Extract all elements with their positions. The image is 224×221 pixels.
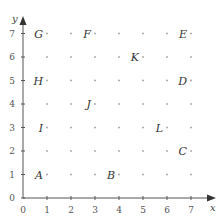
grid-dot — [118, 127, 120, 129]
y-tick-label: 2 — [9, 146, 15, 156]
grid-dot — [46, 174, 48, 176]
grid-dot — [94, 33, 96, 35]
grid-dot — [46, 33, 48, 35]
x-axis-label: x — [210, 202, 216, 213]
x-tick-label: 4 — [116, 205, 122, 215]
grid-dot — [94, 56, 96, 58]
grid-dot — [46, 103, 48, 105]
point-label-i: I — [38, 122, 44, 135]
point-label-k: K — [130, 51, 140, 64]
grid-dot — [94, 174, 96, 176]
grid-dot — [70, 103, 72, 105]
x-tick-label: 1 — [44, 205, 50, 215]
grid-dot — [166, 150, 168, 152]
grid-dot — [118, 150, 120, 152]
grid-dot — [70, 127, 72, 129]
grid-dot — [70, 174, 72, 176]
grid-dot — [118, 174, 120, 176]
grid-dot — [190, 174, 192, 176]
grid-dot — [190, 33, 192, 35]
point-label-b: B — [106, 169, 115, 182]
point-label-d: D — [177, 75, 187, 88]
grid-dot — [46, 150, 48, 152]
x-tick-label: 7 — [188, 205, 194, 215]
grid-dot — [142, 56, 144, 58]
grid-dot — [70, 150, 72, 152]
grid-dot — [142, 80, 144, 82]
point-label-h: H — [32, 75, 43, 88]
point-label-l: L — [155, 122, 163, 135]
y-tick-label: 4 — [9, 99, 15, 109]
axes: x y — [11, 13, 216, 213]
grid-dots — [46, 33, 192, 176]
grid-dot — [118, 56, 120, 58]
grid-dot — [190, 103, 192, 105]
y-tick-label: 1 — [9, 170, 15, 180]
y-tick-label: 7 — [9, 29, 15, 39]
grid-dot — [118, 80, 120, 82]
grid-dot — [142, 174, 144, 176]
grid-dot — [166, 56, 168, 58]
point-label-g: G — [34, 28, 43, 41]
point-label-e: E — [178, 28, 187, 41]
grid-dot — [190, 80, 192, 82]
grid-dot — [166, 80, 168, 82]
grid-dot — [70, 80, 72, 82]
grid-dot — [70, 33, 72, 35]
y-tick-label: 0 — [9, 193, 15, 203]
grid-dot — [46, 127, 48, 129]
grid-dot — [142, 33, 144, 35]
y-tick-label: 5 — [9, 76, 15, 86]
y-axis-label: y — [11, 13, 18, 24]
grid-dot — [166, 127, 168, 129]
grid-dot — [118, 33, 120, 35]
grid-dot — [190, 56, 192, 58]
grid-dot — [166, 33, 168, 35]
point-label-c: C — [179, 145, 188, 158]
x-tick-label: 2 — [68, 205, 74, 215]
grid-dot — [70, 56, 72, 58]
grid-dot — [94, 150, 96, 152]
grid-dot — [94, 127, 96, 129]
x-tick-label: 6 — [164, 205, 170, 215]
x-tick-label: 0 — [20, 205, 26, 215]
grid-dot — [46, 56, 48, 58]
grid-dot — [142, 103, 144, 105]
point-label-f: F — [82, 28, 91, 41]
grid-dot — [94, 103, 96, 105]
y-axis-arrow-icon — [20, 16, 27, 25]
grid-dot — [142, 127, 144, 129]
coordinate-grid: x y 0123456701234567 ABCDEFGHIJKL — [0, 0, 224, 221]
labeled-points: ABCDEFGHIJKL — [32, 28, 187, 182]
x-tick-label: 5 — [140, 205, 146, 215]
point-label-a: A — [34, 169, 43, 182]
grid-dot — [46, 80, 48, 82]
grid-dot — [142, 150, 144, 152]
grid-dot — [190, 150, 192, 152]
x-tick-label: 3 — [92, 205, 98, 215]
grid-dot — [166, 103, 168, 105]
grid-dot — [166, 174, 168, 176]
y-tick-label: 6 — [9, 52, 15, 62]
x-axis-arrow-icon — [207, 195, 216, 202]
point-label-j: J — [85, 98, 92, 111]
grid-dot — [190, 127, 192, 129]
grid-dot — [118, 103, 120, 105]
grid-dot — [94, 80, 96, 82]
y-tick-label: 3 — [9, 123, 15, 133]
